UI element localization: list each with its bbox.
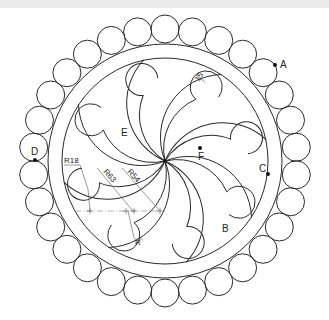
blade — [165, 156, 255, 218]
dimension-construction: R18 R63 R54 R 15 — [64, 70, 206, 247]
point-a-dot — [273, 63, 277, 67]
bead-circle — [73, 40, 101, 68]
point-f-label: F — [198, 151, 204, 162]
bead-circle — [277, 188, 305, 216]
blade — [75, 104, 165, 166]
point-c-dot — [266, 172, 270, 176]
bead-circle — [205, 26, 233, 54]
bead-circle — [26, 188, 54, 216]
bead-circle — [20, 161, 48, 189]
point-d-dot — [33, 158, 37, 162]
blade — [98, 57, 205, 164]
center-dot — [163, 159, 167, 163]
point-d-label: D — [31, 146, 38, 157]
point-a-label: A — [280, 59, 287, 70]
r63-label: R63 — [102, 167, 119, 184]
bead-circle — [37, 213, 65, 241]
bead-circle — [151, 279, 179, 307]
bead-circle — [205, 268, 233, 296]
r18-label: R18 — [64, 156, 79, 165]
bead-circle — [97, 26, 125, 54]
bead-circle — [178, 18, 206, 46]
bead-circle — [124, 18, 152, 46]
bead-circle — [277, 106, 305, 134]
blade — [162, 94, 269, 201]
bead-circle — [97, 268, 125, 296]
region-b-label: B — [222, 223, 229, 234]
labeled-points: A C D F B E — [31, 59, 287, 234]
bead-circle — [282, 161, 310, 189]
bead-circle — [26, 106, 54, 134]
point-c-label: C — [259, 163, 266, 174]
bead-circle — [265, 81, 293, 109]
bead-circle — [229, 254, 257, 282]
bead-circle — [178, 276, 206, 304]
point-f-dot — [198, 146, 202, 150]
r-label: R — [135, 238, 141, 247]
r18-arrow-line — [80, 165, 88, 189]
blade — [160, 71, 222, 161]
bead-circle — [124, 276, 152, 304]
bead-circle — [282, 133, 310, 161]
r-leader — [128, 211, 134, 238]
region-e-label: E — [121, 127, 128, 138]
bead-circle — [151, 15, 179, 43]
blade — [125, 158, 232, 265]
pinwheel-drawing: R18 R63 R54 R 15 A C D F B E — [0, 0, 329, 320]
